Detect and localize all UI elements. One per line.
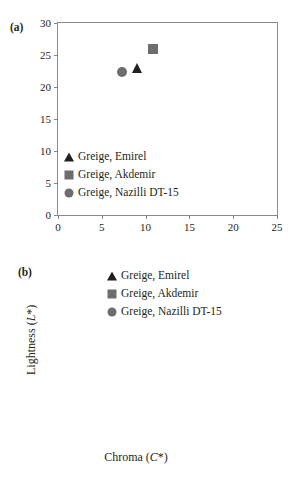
x-axis-tick-label: 20 xyxy=(228,221,239,233)
circle-marker-icon xyxy=(105,306,118,319)
legend-item-emirel: Greige, Emirel xyxy=(62,148,179,166)
x-axis-tick-label: 0 xyxy=(55,221,61,233)
x-axis-tick-label: 25 xyxy=(272,221,283,233)
y-axis-tick xyxy=(54,23,58,24)
y-axis-tick-label: 30 xyxy=(40,17,51,29)
figure-root: (a) b* a* 0510152025300510152025 Greige,… xyxy=(0,0,299,490)
square-marker-icon xyxy=(105,288,118,301)
legend-item-nazilli: Greige, Nazilli DT-15 xyxy=(62,184,179,202)
data-point-square xyxy=(148,44,158,54)
y-axis-tick-label: 5 xyxy=(46,177,52,189)
square-marker-icon xyxy=(62,169,75,182)
legend-label-nazilli: Greige, Nazilli DT-15 xyxy=(78,187,179,199)
legend-label-akdemir: Greige, Akdemir xyxy=(78,169,155,181)
x-axis-tick xyxy=(233,215,234,219)
x-axis-tick-label: 5 xyxy=(99,221,105,233)
y-axis-tick xyxy=(54,183,58,184)
y-axis-tick-label: 20 xyxy=(40,81,51,93)
legend-label-akdemir: Greige, Akdemir xyxy=(121,288,198,300)
x-axis-tick xyxy=(189,215,190,219)
legend-label-emirel: Greige, Emirel xyxy=(78,151,146,163)
legend-item-akdemir: Greige, Akdemir xyxy=(62,166,179,184)
y-axis-tick-label: 10 xyxy=(40,145,51,157)
x-axis-tick xyxy=(277,215,278,219)
panel-b-x-axis-title: Chroma (C*) xyxy=(104,450,168,465)
x-axis-tick-label: 10 xyxy=(140,221,151,233)
y-axis-tick xyxy=(54,151,58,152)
y-axis-tick-label: 15 xyxy=(40,113,51,125)
chart-panel-a: (a) b* a* 0510152025300510152025 Greige,… xyxy=(0,0,299,245)
legend-label-emirel: Greige, Emirel xyxy=(121,270,189,282)
y-axis-tick-label: 0 xyxy=(46,209,52,221)
y-axis-tick xyxy=(54,55,58,56)
chart-panel-b: (b) Lightness (L*) Chroma (C*) 506070809… xyxy=(0,245,299,490)
legend-item-akdemir: Greige, Akdemir xyxy=(105,285,222,303)
panel-a-legend: Greige, Emirel Greige, Akdemir Greige, N… xyxy=(62,148,179,202)
circle-marker-icon xyxy=(62,187,75,200)
data-point-circle xyxy=(117,67,127,77)
triangle-marker-icon xyxy=(105,270,118,283)
panel-b-label: (b) xyxy=(18,266,32,278)
x-axis-tick xyxy=(58,215,59,219)
legend-label-nazilli: Greige, Nazilli DT-15 xyxy=(121,306,222,318)
legend-item-emirel: Greige, Emirel xyxy=(105,267,222,285)
panel-b-y-axis-title: Lightness (L*) xyxy=(24,305,39,375)
legend-item-nazilli: Greige, Nazilli DT-15 xyxy=(105,303,222,321)
x-axis-tick xyxy=(146,215,147,219)
x-axis-tick-label: 15 xyxy=(184,221,195,233)
y-axis-tick-label: 25 xyxy=(40,49,51,61)
y-axis-tick xyxy=(54,119,58,120)
panel-b-legend: Greige, Emirel Greige, Akdemir Greige, N… xyxy=(105,267,222,321)
panel-a-label: (a) xyxy=(10,21,23,33)
data-point-triangle xyxy=(132,63,142,73)
triangle-marker-icon xyxy=(62,151,75,164)
x-axis-tick xyxy=(102,215,103,219)
y-axis-tick xyxy=(54,87,58,88)
